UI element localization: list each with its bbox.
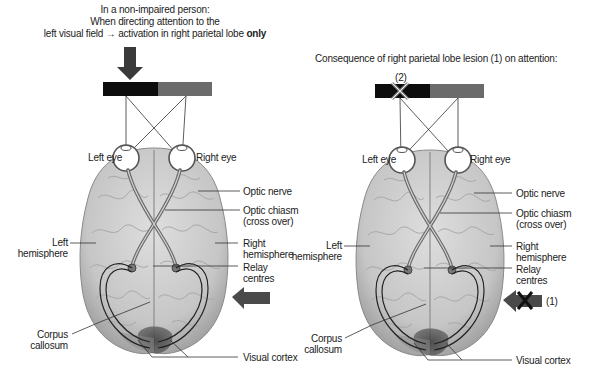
label-optic-chiasm: Optic chiasm <box>516 208 571 219</box>
right-panel-title: Consequence of right parietal lobe lesio… <box>315 53 575 65</box>
label-left-eye: Left eye <box>352 154 396 165</box>
label-optic-chiasm: Optic chiasm <box>243 205 298 216</box>
label-optic-chiasm-sub: (cross over) <box>243 216 293 227</box>
title-line-2: When directing attention to the <box>40 16 270 28</box>
label-optic-nerve: Optic nerve <box>243 186 292 197</box>
label-corpus-callosum: Corpus <box>294 333 342 344</box>
label-relay-centres: Relay <box>516 264 541 275</box>
label-optic-chiasm-sub: (cross over) <box>516 219 566 230</box>
label-left-hemisphere: Left <box>294 240 342 251</box>
label-left-hemisphere: Left <box>20 237 68 248</box>
label-right-eye: Right eye <box>196 152 236 163</box>
label-optic-nerve: Optic nerve <box>516 188 565 199</box>
label-left-eye: Left eye <box>82 152 122 163</box>
title-line-1: In a non-impaired person: <box>40 4 270 16</box>
label-right-hemisphere: Right <box>243 238 265 249</box>
label-relay-centres-sub: centres <box>516 275 547 286</box>
title-line-3: left visual field → activation in right … <box>40 28 270 40</box>
visual-field-right-half <box>430 84 484 98</box>
label-right-eye: Right eye <box>470 154 510 165</box>
label-right-hemisphere-sub: hemisphere <box>516 252 566 263</box>
label-right-hemisphere: Right <box>516 241 538 252</box>
down-arrow-icon <box>117 47 143 80</box>
label-visual-cortex: Visual cortex <box>516 355 570 366</box>
visual-field-left-half <box>103 82 158 96</box>
left-arrow-icon <box>232 287 270 309</box>
marker-1: (1) <box>546 296 558 307</box>
visual-field-right-half <box>158 82 212 96</box>
right-panel <box>344 83 542 360</box>
label-corpus-callosum-sub: callosum <box>288 344 342 355</box>
label-relay-centres: Relay <box>243 262 268 273</box>
left-panel-title: In a non-impaired person: When directing… <box>40 4 270 40</box>
label-relay-centres-sub: centres <box>243 273 274 284</box>
label-corpus-callosum-sub: callosum <box>14 340 68 351</box>
label-corpus-callosum: Corpus <box>20 329 68 340</box>
visual-field-left-half <box>375 84 430 98</box>
blocked-left-arrow-icon <box>503 290 542 312</box>
label-left-hemisphere-sub: hemisphere <box>10 248 68 259</box>
label-left-hemisphere-sub: hemisphere <box>284 251 342 262</box>
left-panel <box>70 47 270 357</box>
title-emphasis: only <box>246 28 266 39</box>
marker-2: (2) <box>395 72 407 83</box>
